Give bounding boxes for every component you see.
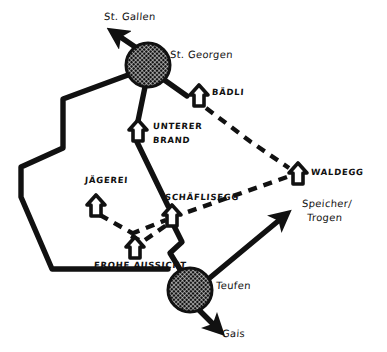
destination-label-st-gallen: St. Gallen (104, 12, 156, 23)
stop-label-unterer-brand-line2: BRAND (153, 136, 191, 145)
route-baedli-waldegg-dashed (206, 108, 289, 168)
stop-marker-schaeflisegg[interactable] (163, 205, 181, 226)
destination-label-gais: Gais (222, 329, 246, 340)
destination-label-speicher-line2: Trogen (307, 213, 343, 224)
stop-label-unterer-brand-line1: UNTERER (153, 122, 203, 131)
town-label-teufen: Teufen (216, 281, 251, 292)
town-node-st-georgen[interactable] (126, 43, 170, 87)
stop-label-baedli: BÄDLI (212, 88, 245, 97)
stop-marker-baedli[interactable] (190, 85, 208, 106)
town-label-st-georgen: St. Georgen (170, 50, 233, 61)
stop-marker-frohe-aussicht[interactable] (126, 237, 144, 258)
destination-label-speicher-line1: Speicher/ (302, 199, 353, 210)
route-unterer-brand-schaeflisegg (137, 142, 168, 206)
stop-label-frohe-aussicht: FROHE AUSSICHT (94, 261, 187, 270)
stop-marker-unterer-brand[interactable] (129, 120, 147, 141)
route-st-georgen-baedli (163, 79, 187, 96)
route-st-georgen-unterer-brand (138, 87, 145, 121)
stop-label-waldegg: WALDEGG (311, 168, 364, 177)
route-teufen-speicher (206, 217, 283, 281)
hand-drawn-transit-map: St. Gallen St. Georgen BÄDLI UNTERER BRA… (0, 0, 387, 352)
town-node-teufen[interactable] (168, 268, 212, 312)
stop-markers (87, 85, 307, 258)
stop-label-jaegerei: JÄGEREI (85, 176, 129, 185)
stop-marker-waldegg[interactable] (289, 163, 307, 184)
stop-marker-jaegerei[interactable] (87, 195, 105, 216)
stop-label-schaeflisegg: SCHÄFLISEGG (165, 193, 240, 202)
route-jaegerei-junction-dashed (100, 215, 132, 233)
